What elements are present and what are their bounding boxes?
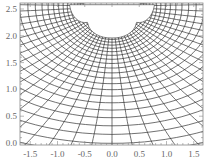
y-tick-label: 1.0 xyxy=(6,84,18,94)
x-axis-tick-labels: -1.5-1.0-0.50.00.51.01.5 xyxy=(23,149,200,159)
y-tick-label: 0.0 xyxy=(6,138,18,148)
x-tick-label: -1.0 xyxy=(50,149,65,159)
scalloped-hole xyxy=(69,5,154,38)
x-tick-label: -0.5 xyxy=(78,149,93,159)
y-axis-tick-labels: 0.00.51.01.52.02.5 xyxy=(6,4,18,148)
y-tick-label: 1.5 xyxy=(6,58,18,68)
y-tick-label: 0.5 xyxy=(6,111,18,121)
plot-canvas: -1.5-1.0-0.50.00.51.01.5 0.00.51.01.52.0… xyxy=(0,0,209,161)
x-tick-label: 0.5 xyxy=(134,149,146,159)
y-tick-label: 2.5 xyxy=(6,4,18,14)
x-tick-label: -1.5 xyxy=(23,149,38,159)
x-tick-label: 1.0 xyxy=(161,149,173,159)
y-tick-label: 2.0 xyxy=(6,31,18,41)
x-tick-label: 0.0 xyxy=(106,149,118,159)
x-tick-label: 1.5 xyxy=(188,149,200,159)
